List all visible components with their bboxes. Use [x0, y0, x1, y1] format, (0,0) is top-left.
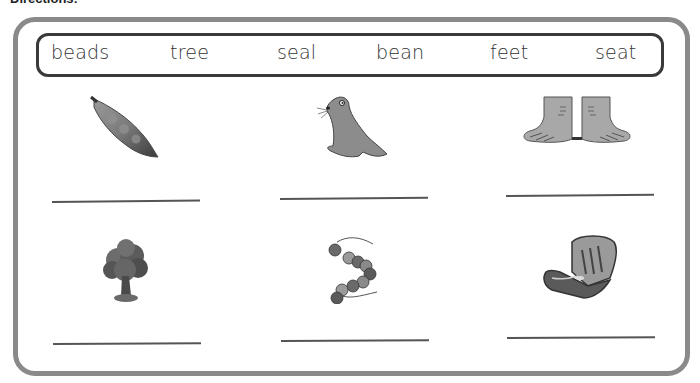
car-seat-icon — [540, 232, 620, 300]
feet-icon — [520, 95, 635, 147]
worksheet-page: Directions: beads tree seal bean feet se… — [0, 0, 700, 383]
word-bank-item: beads — [51, 41, 109, 63]
word-bank-item: seal — [277, 41, 316, 63]
word-bank-item: tree — [170, 41, 209, 63]
directions-label: Directions: — [10, 0, 78, 6]
word-bank-item: feet — [490, 41, 528, 63]
word-bank-item: bean — [376, 41, 424, 63]
seal-icon — [315, 92, 390, 162]
beads-icon — [325, 234, 385, 304]
tree-icon — [100, 238, 152, 304]
word-bank-item: seat — [595, 41, 636, 63]
bean-pod-icon — [88, 95, 163, 165]
word-bank: beads tree seal bean feet seat — [36, 33, 664, 77]
